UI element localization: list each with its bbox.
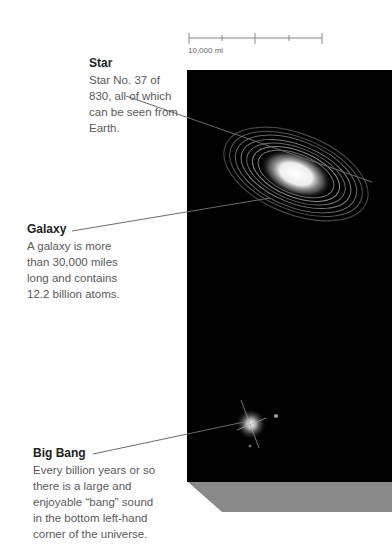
- callout-line: Earth.: [89, 120, 178, 136]
- callout-line: in the bottom left-hand: [33, 510, 155, 526]
- callout-title: Galaxy: [27, 221, 120, 237]
- callout-big-bang: Big Bang Every billion years or so there…: [33, 445, 155, 542]
- callout-star: Star Star No. 37 of 830, all of which ca…: [89, 55, 178, 136]
- callout-line: 12.2 billion atoms.: [27, 286, 120, 302]
- galaxy-graphic: [211, 108, 382, 239]
- cube-bevel: [188, 482, 392, 512]
- callout-galaxy: Galaxy A galaxy is more than 30,000 mile…: [27, 221, 120, 302]
- callout-line: Every billion years or so: [33, 462, 155, 478]
- big-bang-graphic: [235, 400, 278, 448]
- callout-line: can be seen from: [89, 104, 178, 120]
- callout-line: corner of the universe.: [33, 526, 155, 542]
- callout-line: long and contains: [27, 270, 120, 286]
- callout-line: A galaxy is more: [27, 238, 120, 254]
- callout-line: 830, all of which: [89, 88, 178, 104]
- callout-title: Star: [89, 55, 178, 71]
- callout-line: than 30,000 miles: [27, 254, 120, 270]
- callout-line: enjoyable “bang” sound: [33, 494, 155, 510]
- callout-title: Big Bang: [33, 445, 155, 461]
- callout-line: there is a large and: [33, 478, 155, 494]
- callout-line: Star No. 37 of: [89, 72, 178, 88]
